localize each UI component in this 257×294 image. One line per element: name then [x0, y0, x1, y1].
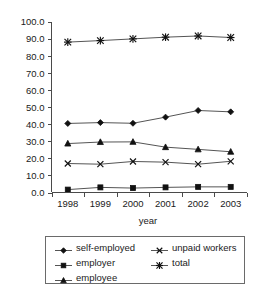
diamond-marker: [195, 107, 201, 113]
y-tick-label: 70.0: [26, 68, 45, 79]
series-line: [68, 36, 231, 42]
diamond-marker: [130, 120, 136, 126]
legend-item-employer[interactable]: employer: [54, 257, 115, 268]
diamond-marker: [61, 248, 67, 254]
series-line: [68, 161, 231, 164]
square-marker: [228, 184, 233, 189]
square-marker: [61, 263, 66, 268]
y-axis-ticks: [48, 23, 52, 194]
series-layer: [64, 32, 235, 192]
y-tick-label: 20.0: [26, 153, 45, 164]
legend-item-label: total: [172, 257, 190, 268]
plot-svg: 0.010.020.030.040.050.060.070.080.090.01…: [0, 0, 257, 232]
triangle-icon: [54, 272, 73, 283]
square-icon: [54, 257, 73, 268]
series-line: [68, 187, 231, 190]
square-marker: [65, 187, 70, 192]
square-marker: [98, 185, 103, 190]
y-tick-label: 30.0: [26, 136, 45, 147]
asterisk-marker: [194, 32, 202, 40]
y-tick-label: 60.0: [26, 85, 45, 96]
x-icon: [150, 242, 169, 253]
y-tick-label: 10.0: [26, 170, 45, 181]
series-line: [68, 142, 231, 152]
legend-item-label: employer: [76, 257, 115, 268]
x-tick-label: 2003: [220, 198, 241, 209]
asterisk-marker: [97, 37, 105, 45]
x-axis-ticks: [52, 193, 248, 197]
asterisk-marker: [162, 33, 170, 41]
y-axis-tick-labels: 0.010.020.030.040.050.060.070.080.090.01…: [21, 16, 45, 198]
plot-area: 0.010.020.030.040.050.060.070.080.090.01…: [0, 0, 257, 232]
x-tick-label: 1998: [57, 198, 78, 209]
x-tick-label: 1999: [90, 198, 111, 209]
legend-item-label: employee: [76, 272, 117, 283]
line-chart: 0.010.020.030.040.050.060.070.080.090.01…: [0, 0, 257, 294]
asterisk-marker: [156, 262, 163, 269]
x-tick-label: 2001: [155, 198, 176, 209]
chart-legend: self-employedemployeremployeeunpaid work…: [45, 236, 245, 284]
x-tick-label: 2002: [188, 198, 209, 209]
diamond-marker: [163, 114, 169, 120]
series-unpaid-workers: [65, 158, 234, 167]
y-tick-label: 80.0: [26, 51, 45, 62]
legend-item-total[interactable]: total: [150, 257, 190, 268]
diamond-marker: [97, 120, 103, 126]
legend-entries: self-employedemployeremployeeunpaid work…: [46, 237, 244, 283]
y-tick-label: 100.0: [21, 16, 45, 27]
series-employer: [65, 184, 233, 192]
series-self-employed: [65, 107, 234, 126]
x-tick-label: 2000: [122, 198, 143, 209]
square-marker: [196, 184, 201, 189]
legend-item-self-employed[interactable]: self-employed: [54, 242, 135, 253]
square-marker: [130, 186, 135, 191]
diamond-marker: [65, 120, 71, 126]
diamond-marker: [228, 109, 234, 115]
x-axis-title: year: [139, 215, 157, 226]
legend-item-label: self-employed: [76, 242, 135, 253]
series-total: [64, 32, 235, 46]
square-marker: [163, 185, 168, 190]
y-tick-label: 50.0: [26, 102, 45, 113]
asterisk-marker: [64, 38, 72, 46]
series-employee: [65, 139, 234, 155]
legend-item-label: unpaid workers: [172, 242, 236, 253]
y-tick-label: 40.0: [26, 119, 45, 130]
legend-item-employee[interactable]: employee: [54, 272, 117, 283]
legend-item-unpaid-workers[interactable]: unpaid workers: [150, 242, 236, 253]
y-tick-label: 90.0: [26, 33, 45, 44]
x-axis-tick-labels: 199819992000200120022003: [57, 198, 241, 209]
series-line: [68, 110, 231, 123]
y-tick-label: 0.0: [31, 187, 44, 198]
asterisk-marker: [227, 34, 235, 42]
asterisk-icon: [150, 257, 169, 268]
asterisk-marker: [129, 35, 137, 43]
diamond-icon: [54, 242, 73, 253]
